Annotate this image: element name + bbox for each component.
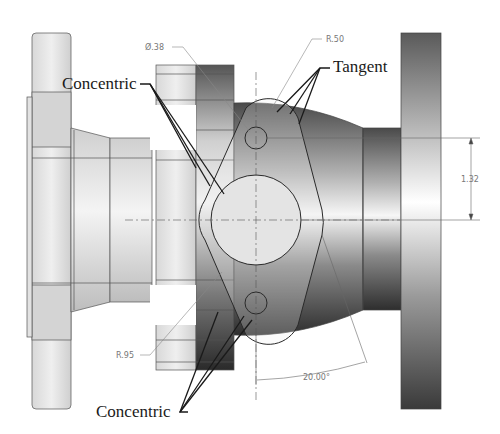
dim-radius-bottom-label: R.95 xyxy=(116,351,134,360)
callout-tangent: Tangent xyxy=(333,57,388,76)
dim-angle-label: 20.00° xyxy=(303,373,330,382)
callout-concentric-top: Concentric xyxy=(62,74,137,93)
cad-drawing: 1.32 20.00° Ø.38 R.50 R.95 Concentric Ta… xyxy=(0,0,500,434)
right-flange-plate xyxy=(401,33,441,409)
dim-radius-top-label: R.50 xyxy=(326,35,344,44)
callout-concentric-bottom: Concentric xyxy=(96,402,171,421)
dim-hole-spacing-label: 1.32 xyxy=(461,175,479,184)
dim-hole-diameter-label: Ø.38 xyxy=(145,42,164,52)
